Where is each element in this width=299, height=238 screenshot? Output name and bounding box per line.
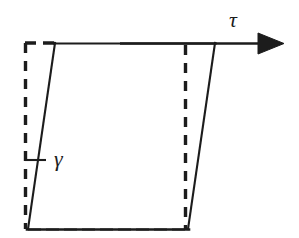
arrow-head-icon (258, 33, 284, 54)
deformed-parallelogram-solid (27, 43, 216, 230)
shear-stress-label: τ (229, 9, 237, 31)
shear-stress-arrow (120, 33, 284, 54)
deformed-right-edge (188, 43, 215, 229)
shear-deformation-figure: τ γ (0, 0, 299, 238)
original-rectangle-dashed (25, 43, 186, 230)
shear-strain-label: γ (54, 148, 63, 170)
shear-diagram-canvas (0, 0, 299, 238)
deformed-left-edge (28, 43, 55, 229)
